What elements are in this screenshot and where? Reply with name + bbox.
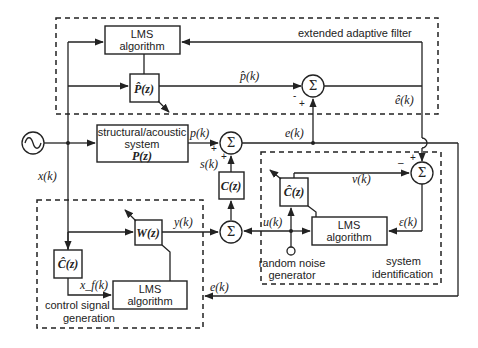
- svg-text:+: +: [410, 152, 416, 163]
- svg-text:LMS: LMS: [131, 28, 154, 40]
- svg-text:C(z): C(z): [221, 179, 242, 193]
- svg-text:Σ: Σ: [418, 166, 426, 180]
- signal-p-hat: p̂(k): [239, 69, 259, 83]
- svg-text:Ĉ(z): Ĉ(z): [284, 185, 305, 199]
- svg-text:Σ: Σ: [309, 79, 317, 93]
- signal-e-hat: ê(k): [395, 93, 414, 107]
- svg-text:–: –: [398, 157, 404, 168]
- svg-text:W(z): W(z): [136, 226, 159, 240]
- signal-s: s(k): [200, 157, 218, 171]
- svg-text:+: +: [221, 151, 227, 162]
- sine-source-icon: [22, 132, 44, 154]
- svg-text:+: +: [299, 98, 305, 109]
- svg-text:-: -: [293, 90, 296, 101]
- svg-text:P(z): P(z): [132, 149, 152, 163]
- signal-x: x(k): [37, 169, 57, 183]
- svg-text:algorithm: algorithm: [326, 231, 371, 243]
- signal-y: y(k): [173, 215, 193, 229]
- svg-text:+: +: [211, 143, 217, 154]
- svg-text:LMS: LMS: [338, 219, 361, 231]
- group-label-generation: generation: [63, 312, 115, 324]
- svg-text:LMS: LMS: [139, 283, 162, 295]
- group-label-system: system: [386, 255, 421, 267]
- signal-e-top: e(k): [285, 126, 304, 140]
- group-label-control-signal: control signal: [45, 299, 110, 311]
- signal-e-ctrl: e(k): [210, 280, 229, 294]
- svg-text:structural/acoustic: structural/acoustic: [98, 126, 187, 138]
- noise-generator-icon: [287, 247, 295, 255]
- group-label-extended-adaptive-filter: extended adaptive filter: [298, 27, 412, 39]
- noise-label-1: random noise: [259, 257, 326, 269]
- group-label-identification: identification: [372, 268, 433, 280]
- signal-u: u(k): [263, 215, 282, 229]
- signal-xf: x_f(k): [79, 278, 108, 292]
- svg-text:algorithm: algorithm: [127, 295, 172, 307]
- noise-label-2: generator: [268, 269, 315, 281]
- svg-text:Σ: Σ: [227, 225, 235, 239]
- anc-block-diagram: extended adaptive filter control signal …: [0, 0, 478, 348]
- signal-p: p(k): [189, 126, 209, 140]
- svg-text:algorithm: algorithm: [119, 40, 164, 52]
- svg-text:P̂(z): P̂(z): [134, 82, 154, 96]
- svg-text:Ĉ(z): Ĉ(z): [58, 257, 79, 271]
- signal-epsilon: ε(k): [399, 215, 417, 229]
- signal-v: v(k): [352, 172, 371, 186]
- svg-text:Σ: Σ: [227, 136, 235, 150]
